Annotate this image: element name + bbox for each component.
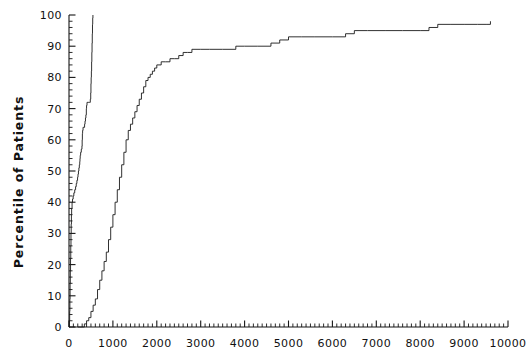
y-tick-label: 60	[47, 134, 62, 147]
chart-figure: Percentile of Patients 01020304050607080…	[0, 0, 530, 364]
y-tick-label: 30	[47, 227, 62, 240]
x-tick-label: 9000	[449, 337, 479, 350]
y-tick-label: 0	[55, 321, 62, 334]
y-tick-label: 90	[47, 40, 62, 53]
y-tick-label: 50	[47, 165, 62, 178]
x-tick-label: 5000	[274, 337, 304, 350]
y-tick-label: 40	[47, 196, 62, 209]
x-tick-label: 0	[65, 337, 72, 350]
data-series-group	[69, 15, 490, 327]
x-tick-label: 8000	[405, 337, 435, 350]
series-line-broad-cumulative-curve	[78, 21, 491, 327]
x-tick-label: 2000	[142, 337, 172, 350]
x-tick-label: 3000	[186, 337, 216, 350]
y-tick-label: 70	[47, 103, 62, 116]
chart-plot-area: 0102030405060708090100 01000200030004000…	[0, 0, 530, 364]
x-tick-label: 4000	[230, 337, 260, 350]
x-tick-label: 10000	[490, 337, 527, 350]
x-tick-label: 7000	[361, 337, 391, 350]
x-tick-label: 1000	[98, 337, 128, 350]
y-tick-label: 80	[47, 71, 62, 84]
y-tick-label: 10	[47, 290, 62, 303]
y-tick-label: 100	[40, 9, 62, 22]
y-tick-label: 20	[47, 259, 62, 272]
x-axis: 0100020003000400050006000700080009000100…	[65, 321, 526, 351]
x-tick-label: 6000	[318, 337, 348, 350]
